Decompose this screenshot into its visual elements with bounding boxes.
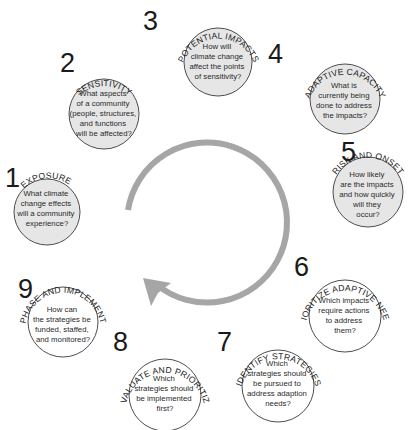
step-sensitivity: 2 SENSITIVITY What aspects of a communit… bbox=[60, 48, 139, 149]
step-number: 4 bbox=[268, 39, 283, 69]
step-number: 3 bbox=[143, 6, 158, 36]
step-identify-strategies: 7 IDENTIFY STRATEGIES Which strategies s… bbox=[217, 327, 323, 422]
step-question: What climate change effects will a commu… bbox=[16, 189, 76, 228]
step-number: 7 bbox=[217, 327, 232, 357]
step-phase-and-implement: 9 PHASE AND IMPLEMENT How can the strate… bbox=[18, 274, 109, 357]
step-number: 1 bbox=[5, 163, 20, 193]
step-number: 8 bbox=[113, 327, 128, 357]
step-risk-and-onset: 5 RISK AND ONSET How likely are the impa… bbox=[330, 137, 407, 227]
adaptation-cycle-diagram: 1 EXPOSURE What climate change effects w… bbox=[0, 0, 414, 430]
step-adaptive-capacity: 4 ADAPTIVE CAPACITY What is currently be… bbox=[268, 39, 388, 134]
step-potential-impacts: 3 POTENTIAL IMPACTS How will climate cha… bbox=[143, 6, 261, 96]
step-exposure: 1 EXPOSURE What climate change effects w… bbox=[5, 163, 80, 245]
step-question: What aspects of a community (people, str… bbox=[70, 89, 139, 138]
step-number: 6 bbox=[294, 252, 309, 282]
cycle-arrow bbox=[128, 143, 287, 306]
cycle-arrow-arc bbox=[128, 143, 287, 303]
step-number: 2 bbox=[60, 48, 75, 78]
